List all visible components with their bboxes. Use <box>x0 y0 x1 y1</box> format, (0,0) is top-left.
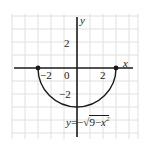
origin-label: 0 <box>64 70 70 81</box>
y-tick-label-neg2: −2 <box>59 89 71 100</box>
radicand-group: 9−x2 <box>89 115 109 128</box>
radical-overbar <box>89 115 109 116</box>
y-tick-label-pos2: 2 <box>64 38 70 49</box>
radicand-exponent: 2 <box>106 115 110 123</box>
endpoint-right <box>114 66 119 71</box>
curve-equation-label: y=−√9−x2 <box>66 115 109 128</box>
y-axis-label: y <box>80 15 85 26</box>
x-tick-label-pos2: 2 <box>100 70 106 81</box>
x-tick-label-neg2: −2 <box>40 70 52 81</box>
graph-figure: x y −2 2 0 2 −2 y=−√9−x2 <box>0 0 150 150</box>
x-axis-label: x <box>123 58 128 69</box>
